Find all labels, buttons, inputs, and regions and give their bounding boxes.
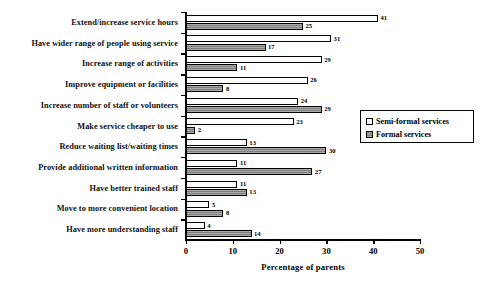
bar-chart: Extend/increase service hoursHave wider …: [0, 0, 483, 298]
bar-value-label: 25: [306, 22, 313, 29]
bar-semi-formal: [186, 15, 378, 22]
category-label: Increase range of activities: [0, 59, 178, 68]
category-label: Extend/increase service hours: [0, 18, 178, 27]
bar-formal: [186, 210, 223, 217]
bar-formal: [186, 23, 303, 30]
bar-value-label: 24: [301, 97, 308, 104]
bar-value-label: 29: [324, 56, 331, 63]
category-label: Reduce waiting list/waiting times: [0, 142, 178, 151]
bar-formal: [186, 106, 322, 113]
bar-formal: [186, 147, 326, 154]
legend-label: Formal services: [376, 130, 431, 139]
bar-formal: [186, 44, 266, 51]
category-label: Have wider range of people using service: [0, 39, 178, 48]
x-axis-tick: [373, 240, 374, 244]
bar-semi-formal: [186, 222, 205, 229]
y-axis-tick: [181, 136, 186, 137]
bar-value-label: 5: [212, 201, 215, 208]
x-axis-tick: [233, 240, 234, 244]
y-axis-tick: [181, 95, 186, 96]
bar-value-label: 31: [334, 35, 341, 42]
x-axis-tick-label: 50: [405, 246, 435, 256]
bar-formal: [186, 189, 247, 196]
bar-value-label: 11: [240, 64, 246, 71]
bar-value-label: 26: [310, 76, 317, 83]
bar-semi-formal: [186, 139, 247, 146]
bar-formal: [186, 127, 195, 134]
bar-semi-formal: [186, 181, 237, 188]
bar-formal: [186, 230, 252, 237]
y-axis-tick: [181, 12, 186, 13]
category-label: Move to more convenient location: [0, 204, 178, 213]
legend-item: Semi-formal services: [366, 115, 468, 127]
legend-item: Formal services: [366, 128, 468, 140]
bar-value-label: 29: [324, 105, 331, 112]
bar-value-label: 8: [226, 209, 229, 216]
bar-value-label: 4: [207, 222, 210, 229]
y-axis-tick: [181, 178, 186, 179]
bar-value-label: 13: [249, 139, 256, 146]
bar-formal: [186, 64, 237, 71]
legend-swatch-icon: [366, 118, 373, 125]
y-axis-tick: [181, 74, 186, 75]
bar-value-label: 23: [296, 118, 303, 125]
category-label: Have more understanding staff: [0, 225, 178, 234]
chart-legend: Semi-formal servicesFormal services: [360, 110, 474, 143]
bar-value-label: 17: [268, 43, 275, 50]
x-axis-tick: [326, 240, 327, 244]
bar-formal: [186, 168, 312, 175]
bar-semi-formal: [186, 160, 237, 167]
bar-value-label: 14: [254, 230, 261, 237]
x-axis-title: Percentage of parents: [186, 262, 420, 272]
bar-semi-formal: [186, 56, 322, 63]
x-axis-tick: [186, 240, 187, 244]
x-axis-tick-label: 40: [358, 246, 388, 256]
y-axis-tick: [181, 116, 186, 117]
x-axis-tick-label: 20: [265, 246, 295, 256]
category-label-column: Extend/increase service hoursHave wider …: [0, 12, 182, 240]
bar-value-label: 11: [240, 180, 246, 187]
x-axis-tick-label: 30: [311, 246, 341, 256]
bar-value-label: 2: [198, 126, 201, 133]
legend-label: Semi-formal services: [376, 117, 449, 126]
category-label: Increase number of staff or volunteers: [0, 101, 178, 110]
bar-semi-formal: [186, 201, 209, 208]
bar-value-label: 13: [249, 188, 256, 195]
bar-value-label: 27: [315, 168, 322, 175]
bar-value-label: 30: [329, 147, 336, 154]
x-axis-line: [185, 239, 421, 241]
bar-semi-formal: [186, 118, 294, 125]
bar-value-label: 8: [226, 85, 229, 92]
category-label: Have better trained staff: [0, 184, 178, 193]
y-axis-tick: [181, 157, 186, 158]
y-axis-tick: [181, 53, 186, 54]
category-label: Provide additional written information: [0, 163, 178, 172]
category-label: Improve equipment or facilities: [0, 80, 178, 89]
x-axis-tick-label: 10: [218, 246, 248, 256]
x-axis-tick: [280, 240, 281, 244]
y-axis-tick: [181, 33, 186, 34]
bar-semi-formal: [186, 77, 308, 84]
y-axis-tick: [181, 219, 186, 220]
bar-value-label: 11: [240, 159, 246, 166]
y-axis-tick: [181, 199, 186, 200]
bar-semi-formal: [186, 98, 298, 105]
bar-formal: [186, 85, 223, 92]
bar-value-label: 41: [380, 14, 387, 21]
category-label: Make service cheaper to use: [0, 122, 178, 131]
x-axis-tick-label: 0: [171, 246, 201, 256]
bar-semi-formal: [186, 35, 331, 42]
x-axis-tick: [420, 240, 421, 244]
legend-swatch-icon: [366, 131, 373, 138]
